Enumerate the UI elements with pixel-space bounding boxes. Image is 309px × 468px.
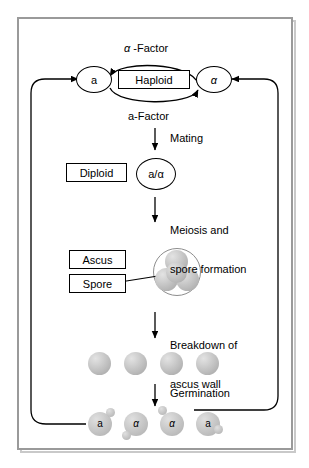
germinated-cell-1-label: a	[90, 418, 110, 429]
meiosis-label: Meiosis and spore formation	[170, 198, 246, 302]
haploid-box: Haploid	[118, 70, 190, 89]
diploid-box-label: Diploid	[80, 167, 114, 179]
ascus-box-label: Ascus	[83, 254, 113, 266]
node-diploid-cell-label: a/α	[148, 168, 164, 180]
haploid-box-label: Haploid	[135, 74, 172, 86]
alpha-factor-label: α -Factor	[124, 42, 168, 55]
node-diploid-cell: a/α	[136, 158, 176, 190]
germinated-cell-3-label: α	[162, 418, 182, 429]
node-a-haploid: a	[76, 66, 112, 93]
germination-label: Germination	[170, 387, 230, 400]
node-alpha-haploid: α	[196, 66, 232, 93]
node-alpha-haploid-label: α	[211, 74, 217, 86]
germinated-cell-1-bud	[106, 408, 115, 417]
free-spore-2	[124, 352, 147, 375]
ascus-box: Ascus	[69, 250, 126, 269]
spore-box-label: Spore	[83, 278, 112, 290]
meiosis-label-line2: spore formation	[170, 263, 246, 276]
germinated-cell-2-label: α	[126, 418, 146, 429]
meiosis-label-line1: Meiosis and	[170, 224, 246, 237]
a-factor-label: a-Factor	[128, 110, 169, 123]
mating-label: Mating	[170, 132, 203, 145]
a-factor-arrow	[110, 88, 198, 102]
spore-box: Spore	[69, 274, 126, 293]
breakdown-label-line1: Breakdown of	[170, 339, 237, 352]
germinated-cell-3-bud	[158, 406, 167, 415]
germinated-cell-2-bud	[122, 431, 131, 440]
diploid-box: Diploid	[66, 163, 127, 182]
diagram-canvas: a α α a a	[0, 0, 309, 468]
germinated-cell-4-label: a	[198, 418, 218, 429]
breakdown-label: Breakdown of ascus wall	[170, 313, 237, 417]
node-a-haploid-label: a	[91, 74, 97, 86]
free-spore-1	[88, 352, 111, 375]
